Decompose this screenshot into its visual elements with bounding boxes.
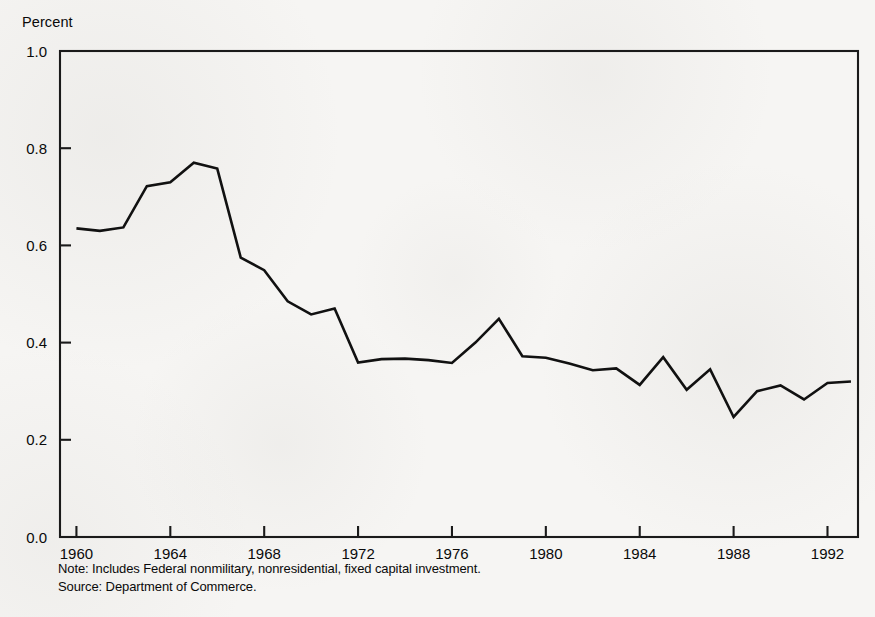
chart-source: Source: Department of Commerce. bbox=[58, 579, 256, 594]
plot-frame bbox=[60, 51, 858, 537]
svg-text:1960: 1960 bbox=[60, 545, 93, 562]
svg-text:0.8: 0.8 bbox=[26, 140, 47, 157]
svg-text:1988: 1988 bbox=[717, 545, 750, 562]
svg-text:0.6: 0.6 bbox=[26, 237, 47, 254]
svg-text:1964: 1964 bbox=[154, 545, 187, 562]
svg-text:1968: 1968 bbox=[248, 545, 281, 562]
x-axis-ticks: 196019641968197219761980198419881992 bbox=[60, 526, 844, 562]
svg-text:1976: 1976 bbox=[435, 545, 468, 562]
svg-text:0.0: 0.0 bbox=[26, 529, 47, 546]
svg-text:1.0: 1.0 bbox=[26, 43, 47, 60]
svg-text:1972: 1972 bbox=[341, 545, 374, 562]
svg-text:1992: 1992 bbox=[811, 545, 844, 562]
svg-text:0.4: 0.4 bbox=[26, 334, 47, 351]
chart-note: Note: Includes Federal nonmilitary, nonr… bbox=[58, 561, 481, 576]
y-axis-ticks: 0.00.20.40.60.81.0 bbox=[26, 43, 71, 546]
line-chart: 0.00.20.40.60.81.0 196019641968197219761… bbox=[0, 0, 875, 617]
data-series-group bbox=[76, 163, 851, 417]
svg-text:1980: 1980 bbox=[529, 545, 562, 562]
svg-text:1984: 1984 bbox=[623, 545, 656, 562]
svg-text:0.2: 0.2 bbox=[26, 431, 47, 448]
chart-page: Percent 0.00.20.40.60.81.0 1960196419681… bbox=[0, 0, 875, 617]
